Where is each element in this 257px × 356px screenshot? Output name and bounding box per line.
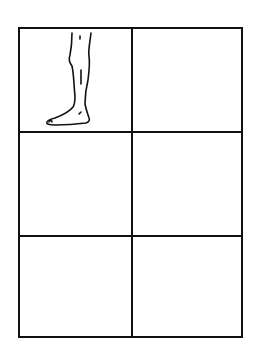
six-panel-grid [18,27,243,338]
cell-r2-c1 [20,133,131,235]
cell-r3-c2 [133,237,241,336]
leg-foot-icon [20,29,131,131]
cell-r1-c2 [133,29,241,131]
cell-r1-c1 [20,29,131,131]
cell-r3-c1 [20,237,131,336]
cell-r2-c2 [133,133,241,235]
